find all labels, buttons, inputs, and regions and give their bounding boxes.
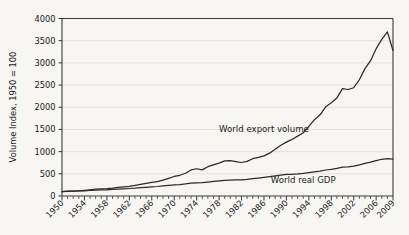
y-axis-tick-label: 1000 bbox=[34, 147, 55, 157]
line-chart: 1950195419581962196619701974197819821986… bbox=[0, 0, 409, 235]
y-axis-tick-label: 2500 bbox=[34, 80, 55, 90]
y-axis-tick-label: 4000 bbox=[34, 14, 55, 24]
y-axis-tick-label: 500 bbox=[40, 169, 56, 179]
chart-container: 1950195419581962196619701974197819821986… bbox=[0, 0, 409, 235]
series-label-world-export-volume: World export volume bbox=[219, 124, 309, 134]
y-axis-tick-label: 1500 bbox=[34, 124, 55, 134]
y-axis-tick-label: 3500 bbox=[34, 36, 55, 46]
series-label-world-real-gdp: World real GDP bbox=[271, 175, 336, 185]
y-axis-title: Volume Index, 1950 = 100 bbox=[8, 52, 18, 163]
y-axis-tick-label: 2000 bbox=[34, 102, 55, 112]
y-axis-tick-label: 0 bbox=[50, 191, 55, 201]
y-axis-tick-label: 3000 bbox=[34, 58, 55, 68]
